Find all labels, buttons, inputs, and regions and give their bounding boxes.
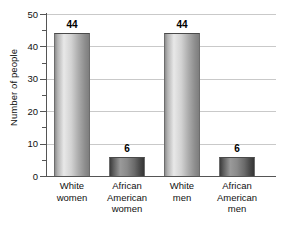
category-line: African bbox=[203, 180, 271, 192]
y-tick-label-20: 20 bbox=[8, 107, 38, 117]
y-tick-label-40: 40 bbox=[8, 42, 38, 52]
y-axis-tick-labels: 50 40 30 20 10 0 bbox=[0, 0, 38, 229]
y-tick-label-50: 50 bbox=[8, 10, 38, 20]
bar-value-african-american-women: 6 bbox=[97, 144, 157, 154]
y-tick-label-0: 0 bbox=[8, 172, 38, 182]
gridline-50 bbox=[47, 14, 276, 15]
bar-value-white-women: 44 bbox=[42, 20, 102, 30]
plot-area: 44 6 44 6 bbox=[47, 14, 276, 176]
bar-african-american-women[interactable] bbox=[109, 157, 145, 176]
y-tick-label-30: 30 bbox=[8, 74, 38, 84]
category-line: American bbox=[203, 192, 271, 204]
x-axis-line bbox=[46, 176, 276, 177]
bar-african-american-men[interactable] bbox=[219, 157, 255, 176]
bar-white-men[interactable] bbox=[164, 33, 200, 176]
y-tick-label-10: 10 bbox=[8, 139, 38, 149]
category-label-african-american-men: African American men bbox=[203, 180, 271, 215]
bar-value-white-men: 44 bbox=[152, 20, 212, 30]
bar-value-african-american-men: 6 bbox=[207, 144, 267, 154]
category-line: men bbox=[203, 203, 271, 215]
x-axis-category-labels: White women African American women White… bbox=[47, 180, 276, 229]
bar-chart: Number of people 50 40 30 20 10 0 44 6 4… bbox=[0, 0, 284, 229]
category-line: women bbox=[93, 203, 161, 215]
bar-white-women[interactable] bbox=[54, 33, 90, 176]
